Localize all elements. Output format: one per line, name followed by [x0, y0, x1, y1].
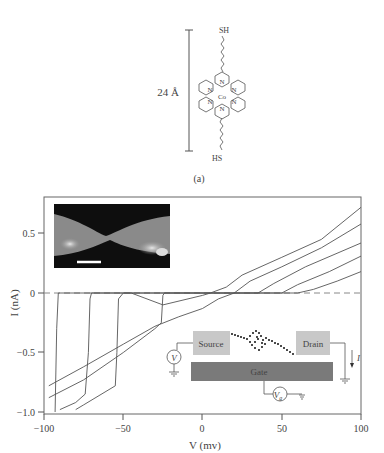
svg-text:Source: Source	[199, 339, 224, 349]
y-tick-label: 0	[30, 288, 35, 299]
alkyl-chain-top	[221, 36, 224, 72]
circuit-schematic: Source Drain Gate	[167, 330, 361, 401]
x-axis-label: V (mv)	[189, 439, 221, 452]
y-axis-label: I (nA)	[8, 289, 21, 317]
y-tick-label: −0.5	[17, 347, 35, 358]
x-axis	[44, 414, 361, 420]
svg-text:Gate: Gate	[251, 367, 268, 377]
molecule-diagram: 24 Å SH HS N N N N N N	[157, 26, 245, 163]
svg-text:N: N	[231, 86, 236, 94]
length-label: 24 Å	[157, 86, 179, 98]
thiol-top-label: SH	[219, 26, 229, 35]
molecule-dots	[231, 330, 294, 355]
current-label: I	[356, 353, 361, 363]
inset-micrograph	[54, 204, 170, 268]
y-tick-label: 0.5	[23, 228, 36, 239]
chart: 0.5 0 −0.5 −1.0 I (nA) −100 −50 0 50 100…	[8, 197, 369, 452]
svg-text:N: N	[219, 78, 224, 86]
svg-text:N: N	[231, 98, 236, 106]
svg-text:N: N	[207, 86, 212, 94]
current-arrow-icon	[350, 363, 354, 368]
drain-ground	[330, 343, 352, 383]
svg-text:N: N	[207, 98, 212, 106]
x-tick-label: −100	[34, 423, 55, 434]
x-tick-label: 100	[354, 423, 369, 434]
x-tick-label: 50	[277, 423, 287, 434]
figure: 24 Å SH HS N N N N N N	[0, 0, 384, 453]
panel-a-label: (a)	[193, 173, 204, 185]
thiol-bottom-label: HS	[212, 154, 222, 163]
svg-text:Drain: Drain	[303, 339, 324, 349]
y-axis	[38, 233, 44, 412]
gate-voltage-source	[264, 381, 305, 401]
x-tick-label: 0	[200, 423, 205, 434]
y-tick-label: −1.0	[17, 407, 35, 418]
cobalt-label: Co	[218, 93, 227, 101]
x-tick-label: −50	[115, 423, 131, 434]
svg-text:N: N	[219, 105, 224, 113]
length-bracket	[185, 30, 193, 151]
alkyl-chain-bottom	[220, 118, 223, 150]
